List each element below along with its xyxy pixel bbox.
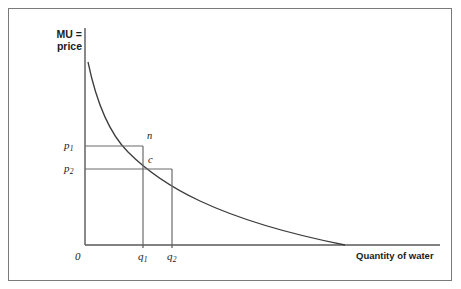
- q2-base: q: [167, 250, 173, 262]
- y-axis-title: MU = price: [26, 29, 82, 53]
- y-axis-title-line2: price: [57, 40, 82, 52]
- figure-root: MU = price Quantity of water p1 p2 q1 q2…: [0, 0, 461, 289]
- x-tick-label-q2: q2: [167, 250, 176, 264]
- p2-base: p: [64, 162, 70, 174]
- q1-base: q: [138, 250, 144, 262]
- mu-price-curve: [88, 62, 345, 245]
- x-axis-title: Quantity of water: [356, 251, 434, 262]
- p1-subscript: 1: [70, 144, 74, 153]
- y-tick-label-p2: p2: [64, 162, 73, 176]
- q1-subscript: 1: [144, 255, 148, 264]
- point-label-c: c: [148, 154, 153, 166]
- y-axis-title-line1: MU =: [57, 28, 82, 40]
- x-tick-label-q1: q1: [138, 250, 147, 264]
- y-tick-label-p1: p1: [64, 139, 73, 153]
- origin-label: 0: [75, 250, 81, 262]
- q2-subscript: 2: [173, 255, 177, 264]
- p2-subscript: 2: [70, 167, 74, 176]
- point-label-n: n: [147, 130, 152, 142]
- p1-base: p: [64, 139, 70, 151]
